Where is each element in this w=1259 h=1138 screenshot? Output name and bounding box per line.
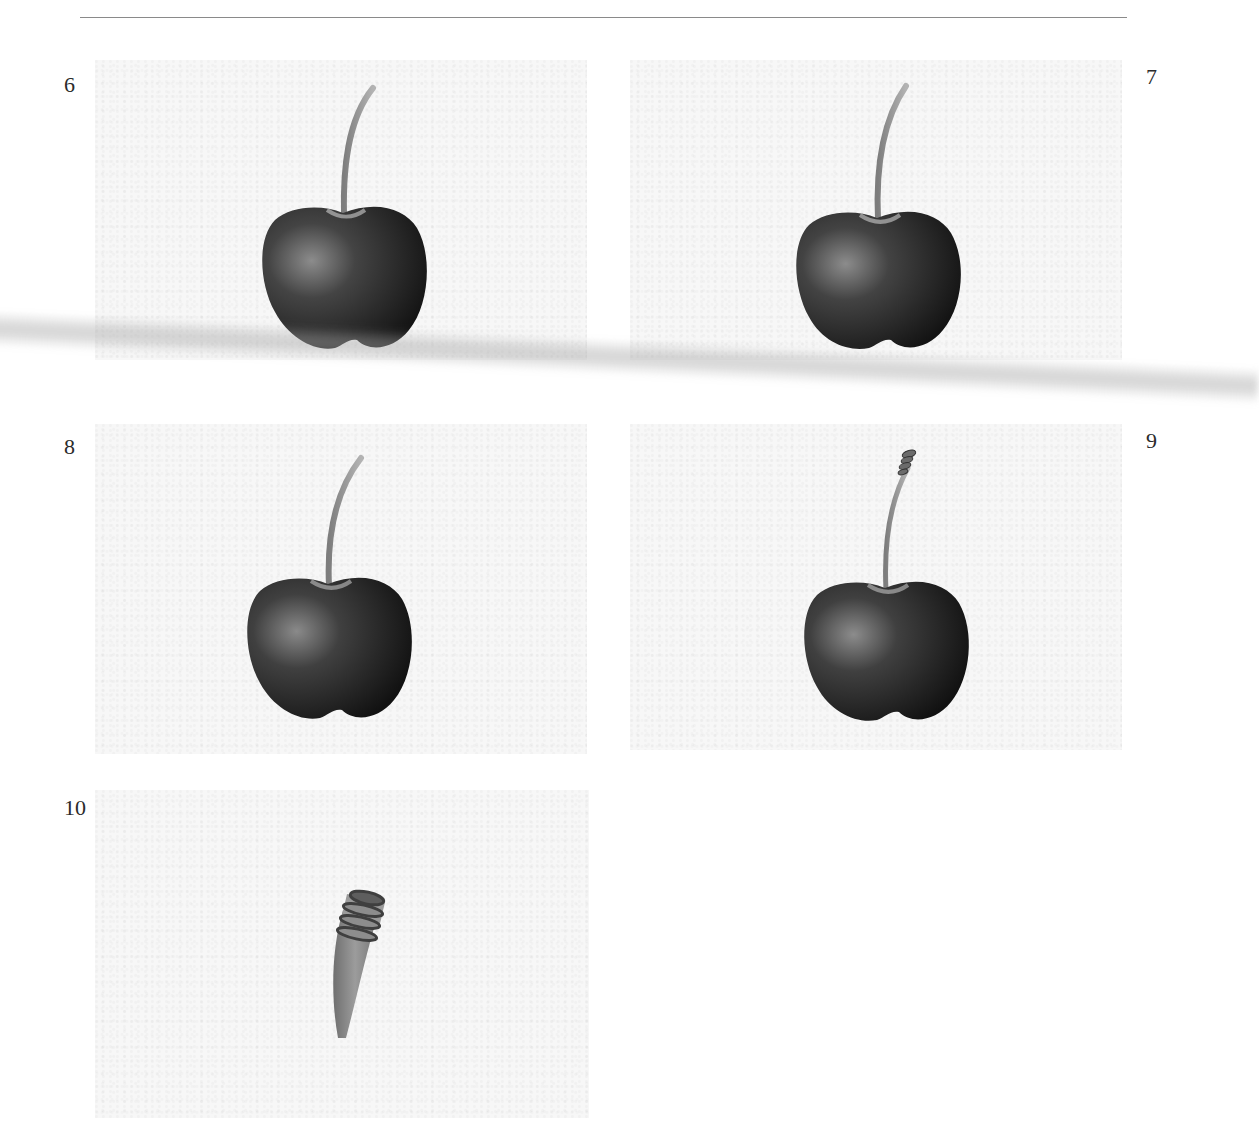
step-number-10: 10 (64, 797, 86, 819)
cherry-drawing-icon (630, 424, 1122, 750)
step-panel-10 (95, 790, 589, 1118)
step-panel-7 (630, 60, 1122, 360)
step-number-9: 9 (1146, 430, 1157, 452)
step-number-6: 6 (64, 74, 75, 96)
step-number-7: 7 (1146, 66, 1157, 88)
cherry-drawing-icon (95, 60, 587, 360)
stem-detail-drawing-icon (95, 790, 589, 1118)
stem-rings (897, 449, 916, 476)
cherry-drawing-icon (630, 60, 1122, 360)
step-panel-8 (95, 424, 587, 754)
step-number-8: 8 (64, 436, 75, 458)
cherry-drawing-icon (95, 424, 587, 754)
step-panel-6 (95, 60, 587, 360)
step-panel-9 (630, 424, 1122, 750)
top-rule (80, 17, 1127, 18)
